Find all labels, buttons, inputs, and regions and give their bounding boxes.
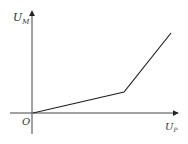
origin-label: O [22, 116, 30, 127]
characteristic-curve [33, 33, 171, 113]
graph-canvas: UM O UP [0, 0, 188, 144]
y-axis-label: UM [13, 11, 30, 26]
x-axis-label: UP [165, 121, 178, 133]
